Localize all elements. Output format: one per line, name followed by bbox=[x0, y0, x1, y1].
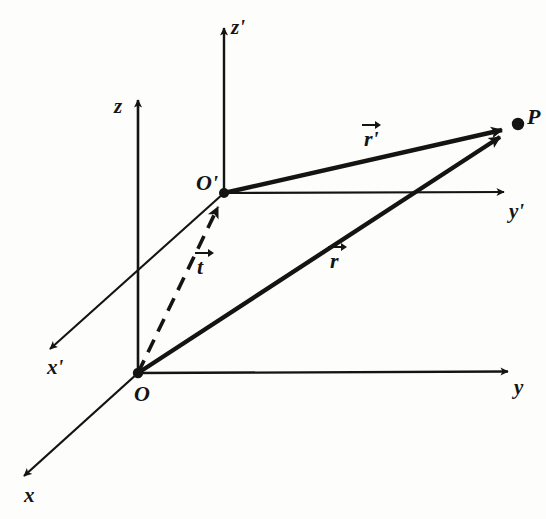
point-label-P: P bbox=[527, 106, 540, 128]
axis-group-primed bbox=[50, 28, 504, 349]
vector-arrow-bar-r bbox=[327, 242, 339, 251]
axis-line-y-prime bbox=[224, 192, 504, 193]
vector-symbol-t: t bbox=[194, 256, 203, 278]
vector-symbol-r: r bbox=[327, 250, 339, 272]
axis-label-y-prime: y' bbox=[509, 201, 524, 222]
vector-symbol-r-prime: r' bbox=[361, 128, 379, 150]
vector-label-t: t bbox=[194, 248, 203, 278]
axis-label-z-prime: z' bbox=[231, 17, 245, 38]
vector-label-r: r bbox=[327, 242, 339, 272]
point-label-O-prime: O' bbox=[196, 172, 218, 194]
axis-label-x: x bbox=[24, 485, 35, 506]
axis-line-x bbox=[24, 373, 138, 476]
axis-label-x-prime: x' bbox=[47, 357, 63, 378]
point-dot-O bbox=[133, 368, 143, 378]
axis-label-z: z bbox=[114, 96, 122, 117]
diagram-svg bbox=[0, 0, 546, 519]
point-dot-O-prime bbox=[219, 188, 229, 198]
vector-arrow-bar-t bbox=[194, 248, 203, 257]
axis-label-y: y bbox=[514, 377, 523, 398]
vector-label-r-prime: r' bbox=[361, 120, 379, 150]
vector-arrow-bar-r-prime bbox=[361, 120, 379, 129]
point-dot-P bbox=[512, 118, 524, 130]
point-label-O: O bbox=[134, 383, 150, 405]
axis-line-y bbox=[138, 372, 508, 374]
vector-diagram-canvas: x y z x' y' z' O O' P r' r t bbox=[0, 0, 546, 519]
